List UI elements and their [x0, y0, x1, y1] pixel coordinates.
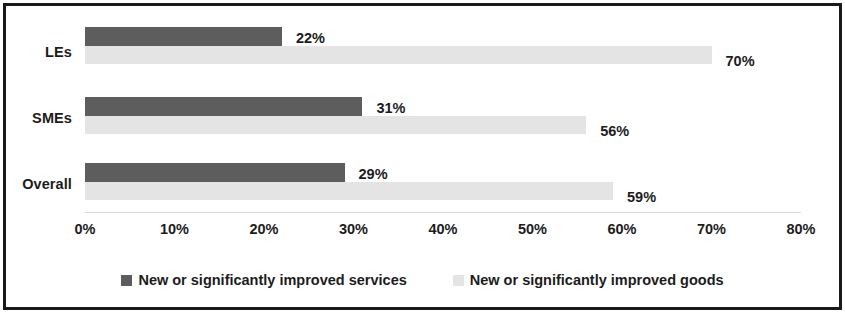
chart-container: LEs SMEs Overall 22% 70% 31% 56% 29% 59%…	[0, 0, 845, 313]
category-label-overall: Overall	[4, 176, 72, 192]
plot-area: LEs SMEs Overall 22% 70% 31% 56% 29% 59%…	[0, 0, 845, 313]
legend-swatch-goods-icon	[453, 275, 464, 286]
bar-overall-services	[85, 163, 345, 182]
bar-value-les-goods: 70%	[726, 54, 755, 69]
x-tick-20: 20%	[249, 221, 278, 237]
x-tick-50: 50%	[518, 221, 547, 237]
bar-smes-goods	[85, 116, 586, 134]
x-axis-line	[85, 212, 801, 213]
bar-les-services	[85, 27, 282, 46]
legend-item-services[interactable]: New or significantly improved services	[121, 272, 406, 288]
x-tick-70: 70%	[697, 221, 726, 237]
bar-overall-goods	[85, 182, 613, 200]
bar-smes-services	[85, 97, 362, 116]
x-tick-0: 0%	[75, 221, 96, 237]
bar-les-goods	[85, 46, 712, 64]
legend-label-goods: New or significantly improved goods	[470, 272, 724, 288]
category-label-les: LEs	[10, 44, 72, 60]
x-tick-10: 10%	[160, 221, 189, 237]
bar-value-smes-goods: 56%	[600, 124, 629, 139]
x-tick-40: 40%	[428, 221, 457, 237]
bar-value-overall-goods: 59%	[627, 190, 656, 205]
chart-legend: New or significantly improved services N…	[0, 272, 845, 288]
legend-item-goods[interactable]: New or significantly improved goods	[453, 272, 724, 288]
x-tick-60: 60%	[607, 221, 636, 237]
bar-value-overall-services: 29%	[359, 167, 388, 182]
x-tick-30: 30%	[339, 221, 368, 237]
x-tick-80: 80%	[786, 221, 815, 237]
category-label-smes: SMEs	[10, 110, 72, 126]
legend-swatch-services-icon	[121, 275, 132, 286]
bar-value-les-services: 22%	[296, 31, 325, 46]
legend-label-services: New or significantly improved services	[138, 272, 406, 288]
bar-value-smes-services: 31%	[376, 101, 405, 116]
